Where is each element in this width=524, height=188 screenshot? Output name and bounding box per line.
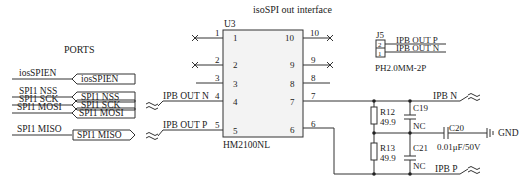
port-label: SPI1 MISO [77, 130, 122, 140]
net-label: IPB OUT P [163, 120, 207, 130]
svg-text:2: 2 [215, 55, 220, 65]
svg-text:6: 6 [290, 125, 295, 135]
svg-text:C20: C20 [449, 123, 465, 133]
svg-text:R13: R13 [380, 143, 396, 153]
svg-text:10: 10 [310, 28, 320, 38]
net-label: IPB P [435, 164, 457, 174]
svg-text:NC: NC [413, 161, 426, 171]
svg-text:9: 9 [311, 55, 316, 65]
svg-text:R12: R12 [380, 107, 395, 117]
net-label: IPB OUT N [163, 91, 209, 101]
svg-text:1: 1 [215, 28, 220, 38]
svg-text:6: 6 [311, 119, 316, 129]
j5-ref: J5 [376, 30, 385, 40]
svg-text:1: 1 [378, 50, 382, 58]
net-label: IPB OUT N [396, 43, 440, 53]
net-label: SPI1 MOSI [17, 102, 62, 112]
svg-text:9: 9 [290, 60, 295, 70]
svg-text:10: 10 [285, 33, 295, 43]
svg-text:7: 7 [311, 91, 316, 101]
svg-text:C21: C21 [413, 143, 428, 153]
svg-text:0.01μF/50V: 0.01μF/50V [437, 142, 481, 152]
net-label: SPI1 MISO [17, 124, 62, 134]
svg-text:2: 2 [378, 41, 382, 49]
svg-text:8: 8 [311, 73, 316, 83]
u3-ref: U3 [224, 19, 236, 29]
svg-text:49.9: 49.9 [380, 117, 396, 127]
port-label: SPI1 MOSI [79, 108, 124, 118]
u3-part: HM2100NL [223, 140, 270, 150]
svg-text:C19: C19 [413, 103, 429, 113]
gnd-label: GND [498, 128, 519, 138]
svg-text:4: 4 [215, 91, 220, 101]
svg-text:3: 3 [215, 73, 220, 83]
svg-text:NC: NC [413, 121, 426, 131]
svg-text:5: 5 [233, 126, 238, 136]
ports-heading: PORTS [64, 44, 95, 55]
svg-text:4: 4 [233, 97, 238, 107]
sheet-title: isoSPI out interface [253, 4, 332, 15]
svg-text:2: 2 [233, 60, 238, 70]
svg-text:3: 3 [233, 79, 238, 89]
j5-part: PH2.0MM-2P [375, 63, 426, 73]
port-label: iosSPIEN [81, 74, 119, 84]
net-label: iosSPIEN [19, 68, 57, 78]
svg-text:1: 1 [233, 33, 238, 43]
svg-text:8: 8 [290, 79, 295, 89]
svg-text:49.9: 49.9 [380, 153, 396, 163]
svg-text:5: 5 [215, 120, 220, 130]
net-label: IPB N [433, 91, 457, 101]
svg-text:7: 7 [290, 97, 295, 107]
schematic: isoSPI out interface PORTS iosSPIEN iosS… [0, 0, 524, 188]
